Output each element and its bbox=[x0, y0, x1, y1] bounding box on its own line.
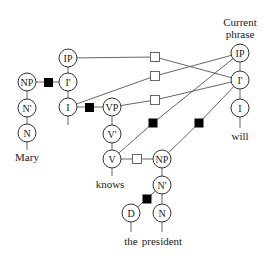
node-d: D bbox=[122, 204, 140, 222]
svg-text:N: N bbox=[158, 208, 165, 219]
word-will: will bbox=[231, 130, 248, 142]
svg-text:V: V bbox=[108, 154, 116, 165]
node-v: V bbox=[103, 150, 121, 168]
node-ip-left: IP bbox=[59, 49, 77, 67]
node-vbar: V' bbox=[103, 125, 121, 143]
header-phrase: phrase bbox=[226, 28, 255, 40]
svg-text:VP: VP bbox=[106, 102, 119, 113]
node-vp: VP bbox=[103, 98, 121, 116]
node-i-right: I bbox=[231, 99, 249, 117]
header-current: Current bbox=[223, 16, 257, 28]
open-squares bbox=[133, 53, 160, 164]
open-square-icon bbox=[151, 53, 160, 62]
svg-text:IP: IP bbox=[64, 53, 73, 64]
node-nbar-obj: N' bbox=[153, 176, 171, 194]
svg-text:N: N bbox=[23, 128, 30, 139]
word-president: president bbox=[142, 235, 182, 247]
svg-text:IP: IP bbox=[236, 48, 245, 59]
filled-square-icon bbox=[149, 119, 158, 128]
filled-square-icon bbox=[85, 103, 94, 112]
filled-square-icon bbox=[195, 119, 204, 128]
word-mary: Mary bbox=[15, 151, 39, 163]
open-square-icon bbox=[151, 72, 160, 81]
node-ip-right: IP bbox=[231, 44, 249, 62]
node-ibar-right: I' bbox=[231, 71, 249, 89]
node-i-left: I bbox=[59, 98, 77, 116]
svg-text:D: D bbox=[127, 208, 134, 219]
word-knows: knows bbox=[96, 178, 125, 190]
svg-text:I': I' bbox=[65, 77, 70, 88]
filled-square-icon bbox=[44, 78, 53, 87]
open-square-icon bbox=[151, 96, 160, 105]
filled-square-icon bbox=[143, 195, 152, 204]
svg-text:I: I bbox=[238, 103, 241, 114]
svg-text:NP: NP bbox=[156, 154, 169, 165]
open-square-icon bbox=[133, 155, 142, 164]
svg-text:I': I' bbox=[237, 75, 242, 86]
node-np-obj: NP bbox=[153, 150, 171, 168]
svg-text:N': N' bbox=[22, 103, 31, 114]
word-the: the bbox=[124, 235, 138, 247]
node-n-mary: N bbox=[18, 124, 36, 142]
svg-text:I: I bbox=[66, 102, 69, 113]
svg-text:NP: NP bbox=[21, 77, 34, 88]
svg-text:N': N' bbox=[157, 180, 166, 191]
node-n-obj: N bbox=[153, 204, 171, 222]
node-ibar-left: I' bbox=[59, 73, 77, 91]
node-np-mary: NP bbox=[18, 73, 36, 91]
svg-text:V': V' bbox=[107, 129, 116, 140]
syntax-diagram: IP I' I NP N' N VP V' V NP N' D N IP I' … bbox=[0, 0, 271, 260]
node-nbar-mary: N' bbox=[18, 99, 36, 117]
